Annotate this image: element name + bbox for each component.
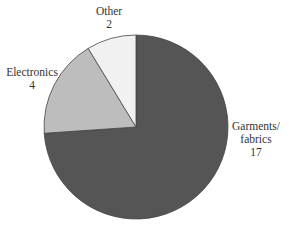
pie-chart (0, 0, 290, 231)
label-electronics-name: Electronics (2, 66, 62, 79)
label-electronics: Electronics 4 (2, 66, 62, 92)
label-garments: Garments/ fabrics 17 (226, 120, 286, 159)
label-garments-name-1: Garments/ (226, 120, 286, 133)
label-other: Other 2 (84, 5, 134, 31)
label-garments-value: 17 (226, 146, 286, 159)
label-electronics-value: 4 (2, 79, 62, 92)
label-garments-name-2: fabrics (226, 133, 286, 146)
label-other-name: Other (84, 5, 134, 18)
label-other-value: 2 (84, 18, 134, 31)
